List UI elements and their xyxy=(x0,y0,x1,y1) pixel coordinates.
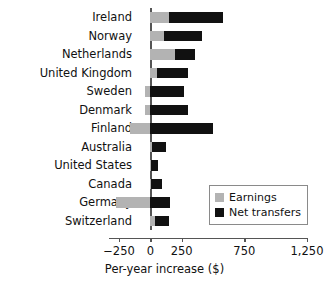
chart-legend: EarningsNet transfers xyxy=(209,185,308,225)
bar-segment-net-transfers xyxy=(150,86,183,97)
bar-segment-earnings xyxy=(150,49,175,60)
bar-row xyxy=(109,27,307,46)
legend-label: Earnings xyxy=(229,191,277,204)
bar-row xyxy=(109,101,307,120)
bar-segment-earnings xyxy=(130,123,150,134)
legend-label: Net transfers xyxy=(229,206,301,219)
x-axis-tick xyxy=(182,238,183,242)
x-axis-tick xyxy=(244,238,245,242)
legend-swatch-icon xyxy=(215,193,224,202)
bar-row xyxy=(109,119,307,138)
legend-swatch-icon xyxy=(215,208,224,217)
legend-item: Net transfers xyxy=(215,205,301,220)
bar-segment-earnings xyxy=(116,197,150,208)
bar-row xyxy=(109,156,307,175)
bar-segment-net-transfers xyxy=(150,123,213,134)
bar-segment-net-transfers xyxy=(151,160,159,171)
x-axis: −25002507501,250 xyxy=(109,238,307,239)
bar-segment-net-transfers xyxy=(151,179,162,190)
bar-segment-net-transfers xyxy=(169,12,224,23)
x-axis-tick-label: 250 xyxy=(171,244,193,258)
legend-item: Earnings xyxy=(215,190,301,205)
bar-row xyxy=(109,8,307,27)
bar-segment-net-transfers xyxy=(152,142,166,153)
bar-row xyxy=(109,64,307,83)
bar-segment-net-transfers xyxy=(150,105,188,116)
x-axis-tick xyxy=(150,238,151,242)
x-axis-tick-label: −250 xyxy=(103,244,135,258)
bar-segment-net-transfers xyxy=(155,216,168,227)
x-axis-tick xyxy=(119,238,120,242)
x-axis-tick-label: 1,250 xyxy=(291,244,324,258)
bar-row xyxy=(109,138,307,157)
x-axis-tick-label: 0 xyxy=(147,244,154,258)
bar-segment-earnings xyxy=(150,68,157,79)
bar-chart: IrelandNorwayNetherlandsUnited KingdomSw… xyxy=(0,0,329,282)
bar-segment-net-transfers xyxy=(175,49,195,60)
bar-segment-earnings xyxy=(150,31,163,42)
bar-row xyxy=(109,82,307,101)
bar-segment-net-transfers xyxy=(164,31,203,42)
bar-segment-net-transfers xyxy=(157,68,188,79)
bar-segment-earnings xyxy=(150,12,168,23)
x-axis-tick xyxy=(307,238,308,242)
x-axis-title: Per-year increase ($) xyxy=(0,262,329,276)
bar-row xyxy=(109,45,307,64)
bar-segment-net-transfers xyxy=(150,197,169,208)
x-axis-tick-label: 750 xyxy=(233,244,255,258)
